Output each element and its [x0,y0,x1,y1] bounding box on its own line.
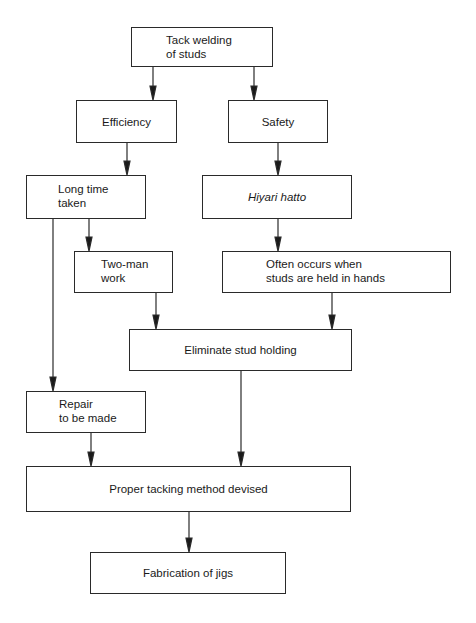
node-label: Eliminate stud holding [184,343,297,357]
node-often-occurs: Often occurs when studs are held in hand… [222,251,451,293]
node-label: Efficiency [102,115,151,129]
node-label: Repair [59,397,93,411]
arrowhead-icon [329,315,335,329]
node-label: Often occurs when [266,257,362,271]
node-label: studs are held in hands [266,271,385,285]
arrowhead-icon [150,86,156,100]
connector-layer [0,0,476,623]
arrowhead-icon [186,538,192,552]
node-label: Safety [262,115,295,129]
node-eliminate-stud-holding: Eliminate stud holding [129,329,352,371]
arrowhead-icon [86,237,92,251]
node-label: work [101,271,125,285]
node-label: Tack welding [166,33,232,47]
arrowhead-icon [275,161,281,175]
node-label: to be made [59,411,117,425]
arrowhead-icon [50,377,56,391]
node-tack-welding: Tack welding of studs [131,27,273,67]
arrowhead-icon [275,237,281,251]
node-label: Two-man [101,257,148,271]
node-repair: Repair to be made [26,391,146,433]
node-proper-tacking: Proper tacking method devised [26,466,351,512]
node-label: of studs [166,47,206,61]
node-label: Long time [58,182,109,196]
node-label: taken [58,196,86,210]
arrowhead-icon [124,161,130,175]
arrowhead-icon [88,452,94,466]
node-efficiency: Efficiency [76,100,177,143]
node-long-time-taken: Long time taken [26,175,146,219]
arrowhead-icon [238,452,244,466]
node-safety: Safety [228,100,328,143]
arrowhead-icon [251,86,257,100]
node-hiyari-hatto: Hiyari hatto [202,175,352,219]
node-fabrication-of-jigs: Fabrication of jigs [90,552,286,594]
node-two-man-work: Two-man work [74,251,173,293]
node-label: Proper tacking method devised [109,482,268,496]
node-label: Fabrication of jigs [143,566,233,580]
node-label: Hiyari hatto [248,190,306,204]
arrowhead-icon [153,315,159,329]
